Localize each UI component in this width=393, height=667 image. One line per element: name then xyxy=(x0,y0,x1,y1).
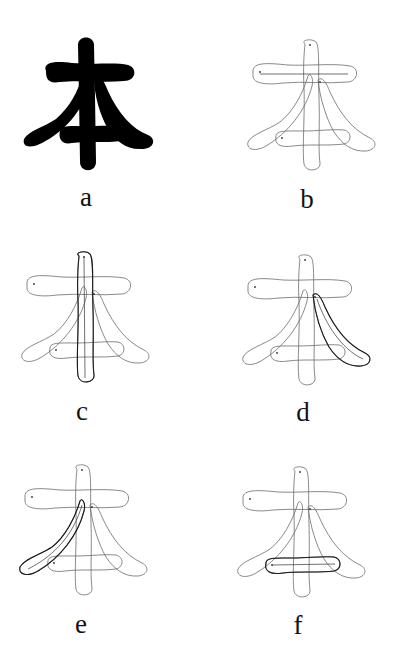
character-outline-horizontal-bottom-highlighted xyxy=(238,465,368,600)
character-glyph-solid xyxy=(24,37,154,172)
panel-label: a xyxy=(66,184,106,211)
character-outline-vertical-highlighted xyxy=(22,250,152,385)
panel-b xyxy=(248,38,378,173)
character-outline-horizontal-top-highlighted xyxy=(248,38,378,173)
panel-label: d xyxy=(283,399,323,426)
panel-label: b xyxy=(287,186,327,213)
panel-e xyxy=(20,463,150,598)
panel-label: c xyxy=(62,398,102,425)
panel-label: f xyxy=(278,612,318,639)
panel-a xyxy=(24,37,154,172)
panel-label: e xyxy=(61,611,101,638)
panel-c xyxy=(22,250,152,385)
panel-d xyxy=(243,253,373,388)
character-outline-right-falling-highlighted xyxy=(243,253,373,388)
character-outline-left-falling-highlighted xyxy=(20,463,150,598)
panel-f xyxy=(238,465,368,600)
